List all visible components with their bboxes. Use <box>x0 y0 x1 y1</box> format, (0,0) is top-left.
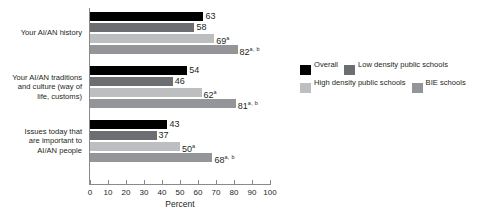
x-tick-label: 20 <box>116 188 136 197</box>
x-tick <box>252 180 253 185</box>
x-tick-label: 90 <box>242 188 262 197</box>
category-label: Your AI/AN traditionsand culture (way of… <box>0 73 82 101</box>
bar <box>90 131 157 140</box>
chart-legend: OverallLow density public schools High d… <box>300 60 475 96</box>
legend-label: High density public schools <box>314 78 406 88</box>
x-tick <box>216 180 217 185</box>
x-tick <box>90 180 91 185</box>
x-tick <box>270 180 271 185</box>
legend-swatch <box>412 83 423 93</box>
legend-swatch <box>300 65 311 75</box>
category-label-line: AI/AN people <box>0 146 82 155</box>
legend-swatch <box>300 83 311 93</box>
bar <box>90 45 238 54</box>
significance-mark: a, b <box>248 100 258 106</box>
bar-chart: 0102030405060708090100 Percent Your AI/A… <box>0 0 477 212</box>
category-label-line: Issues today that <box>0 127 82 136</box>
significance-mark: a, b <box>250 46 260 52</box>
x-tick <box>198 180 199 185</box>
x-tick-label: 60 <box>188 188 208 197</box>
significance-mark: a <box>214 89 217 95</box>
bar <box>90 88 202 97</box>
bar <box>90 99 236 108</box>
category-label: Issues today thatare important toAI/AN p… <box>0 127 82 155</box>
x-tick-label: 30 <box>134 188 154 197</box>
legend-item[interactable]: High density public schools <box>300 78 406 96</box>
x-tick-label: 50 <box>170 188 190 197</box>
bar <box>90 66 187 75</box>
legend-item[interactable]: BIE schools <box>412 78 466 96</box>
bar <box>90 12 203 21</box>
x-axis-title: Percent <box>90 199 270 209</box>
bar-value-label: 37 <box>159 130 169 141</box>
legend-row-1: OverallLow density public schools <box>300 60 475 78</box>
x-tick <box>180 180 181 185</box>
bar <box>90 77 173 86</box>
legend-row-2: High density public schoolsBIE schools <box>300 78 475 96</box>
bar <box>90 153 212 162</box>
bar-value-label: 81a, b <box>238 98 258 112</box>
legend-item[interactable]: Overall <box>300 60 338 78</box>
legend-swatch <box>344 65 355 75</box>
category-label-line: and culture (way of <box>0 82 82 91</box>
x-tick-label: 80 <box>224 188 244 197</box>
legend-label: BIE schools <box>426 78 466 88</box>
x-tick <box>108 180 109 185</box>
significance-mark: a <box>226 35 229 41</box>
category-label: Your AI/AN history <box>0 28 82 37</box>
x-tick-label: 70 <box>206 188 226 197</box>
bar-value-label: 63 <box>205 11 215 22</box>
bar-value-label: 82a, b <box>240 44 260 58</box>
legend-item[interactable]: Low density public schools <box>344 60 448 78</box>
x-tick <box>234 180 235 185</box>
x-tick-label: 0 <box>80 188 100 197</box>
bar <box>90 142 180 151</box>
x-tick-label: 40 <box>152 188 172 197</box>
legend-label: Overall <box>314 60 338 70</box>
bar <box>90 120 167 129</box>
bar-value-label: 54 <box>189 65 199 76</box>
x-tick-label: 100 <box>260 188 280 197</box>
bar <box>90 23 194 32</box>
x-tick <box>144 180 145 185</box>
x-tick <box>162 180 163 185</box>
category-label-line: life, customs) <box>0 92 82 101</box>
bar-value-label: 43 <box>169 119 179 130</box>
x-tick <box>126 180 127 185</box>
category-label-line: are important to <box>0 136 82 145</box>
bar-value-label: 46 <box>175 76 185 87</box>
category-label-line: Your AI/AN traditions <box>0 73 82 82</box>
category-label-line: Your AI/AN history <box>0 28 82 37</box>
legend-label: Low density public schools <box>358 60 448 70</box>
significance-mark: a <box>192 143 195 149</box>
bar-value-label: 68a, b <box>214 152 234 166</box>
bar <box>90 34 214 43</box>
bar-value-label: 58 <box>196 22 206 33</box>
x-tick-label: 10 <box>98 188 118 197</box>
significance-mark: a, b <box>224 154 234 160</box>
